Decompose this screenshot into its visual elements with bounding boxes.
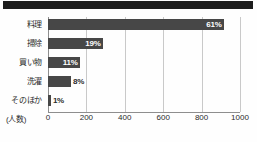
gridline-1000 bbox=[240, 17, 241, 112]
category-label-料理: 料理 bbox=[27, 19, 42, 30]
x-tick-600: 600 bbox=[157, 113, 170, 122]
category-axis-labels: 料理掃除買い物洗濯そのほか bbox=[0, 17, 45, 112]
x-tick-200: 200 bbox=[80, 113, 93, 122]
x-axis-tick-labels: 02004006008001000 bbox=[0, 113, 257, 127]
bar-row: 8% bbox=[48, 76, 240, 87]
plot-area: 61%19%11%8%1% bbox=[48, 17, 240, 112]
x-axis-unit-label: (人数) bbox=[6, 113, 26, 124]
category-label-掃除: 掃除 bbox=[27, 38, 42, 49]
x-tick-800: 800 bbox=[195, 113, 208, 122]
bar-value-label: 19% bbox=[81, 38, 101, 49]
bar-row: 1% bbox=[48, 95, 240, 106]
page-header-band bbox=[3, 1, 253, 9]
category-label-そのほか: そのほか bbox=[11, 95, 42, 106]
bar-value-label: 8% bbox=[73, 76, 84, 87]
chart-page: 料理掃除買い物洗濯そのほか 61%19%11%8%1% 020040060080… bbox=[0, 0, 257, 142]
bar-value-label: 1% bbox=[53, 95, 64, 106]
bar-value-label: 11% bbox=[58, 57, 78, 68]
bar-value-label: 61% bbox=[202, 19, 222, 30]
bar-洗濯 bbox=[48, 76, 71, 87]
category-label-洗濯: 洗濯 bbox=[27, 76, 42, 87]
bar-料理 bbox=[48, 19, 224, 30]
x-tick-400: 400 bbox=[118, 113, 131, 122]
category-label-買い物: 買い物 bbox=[19, 57, 42, 68]
bar-row: 19% bbox=[48, 38, 240, 49]
x-tick-1000: 1000 bbox=[231, 113, 249, 122]
bar-row: 11% bbox=[48, 57, 240, 68]
bar-row: 61% bbox=[48, 19, 240, 30]
x-tick-0: 0 bbox=[46, 113, 50, 122]
bar-そのほか bbox=[48, 95, 51, 106]
